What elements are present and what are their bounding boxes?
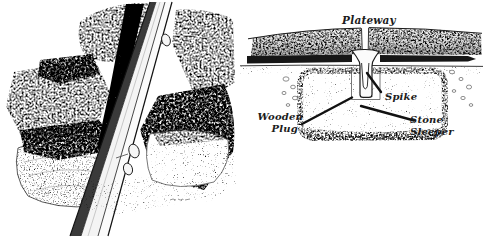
rail-plate-edge [247, 55, 352, 64]
label-spike: Spike [385, 91, 417, 102]
label-plateway: Plateway [341, 14, 396, 26]
scanned-book-figure: Plateway Spike Wooden Plug Stone Sleeper [0, 0, 483, 238]
label-stone-sleeper-line2: Sleeper [410, 126, 454, 137]
label-wooden-plug-line2: Plug [271, 123, 298, 134]
label-wooden-plug-line1: Wooden [257, 111, 303, 122]
plateway-cross-section-diagram: Plateway Spike Wooden Plug Stone Sleeper [240, 0, 483, 238]
plateway-engraving [0, 0, 240, 238]
label-stone-sleeper-line1: Stone [410, 114, 443, 125]
